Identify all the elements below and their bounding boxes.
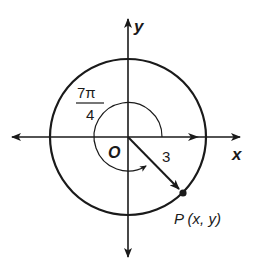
origin-label: O [108, 144, 121, 161]
angle-numerator: 7π [77, 84, 96, 101]
point-label: P (x, y) [174, 210, 221, 227]
radius-label: 3 [162, 148, 170, 165]
y-axis-label: y [133, 17, 145, 36]
angle-denominator: 4 [86, 106, 94, 123]
x-axis-label: x [231, 145, 243, 164]
circle-diagram: y x O 3 7π 4 P (x, y) [0, 0, 255, 262]
terminal-side [128, 137, 179, 189]
point-p [179, 189, 186, 196]
